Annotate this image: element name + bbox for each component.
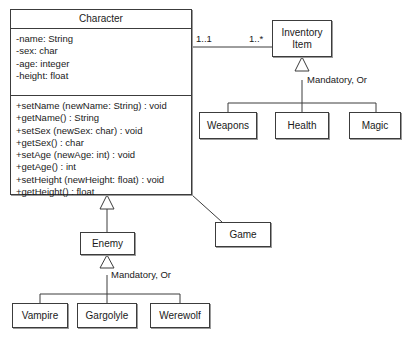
constraint-label-enemy: Mandatory, Or — [111, 269, 171, 280]
class-gargolyle[interactable]: Gargolyle — [77, 303, 137, 328]
method-row: +getAge() : int — [16, 161, 187, 173]
class-character-methods: +setName (newName: String) : void +getNa… — [11, 95, 191, 202]
method-row: +setHeight (newHeight: float) : void — [16, 174, 187, 186]
method-row: +setSex (newSex: char) : void — [16, 125, 187, 137]
method-row: +getHeight() : float — [16, 186, 187, 198]
method-row: +setName (newName: String) : void — [16, 100, 187, 112]
multiplicity-character-end: 1..1 — [196, 33, 212, 44]
method-row: +getName() : String — [16, 112, 187, 124]
class-inventory-item-name: Inventory Item — [273, 27, 331, 51]
class-character-attributes: -name: String -sex: char -age: integer -… — [11, 28, 191, 95]
constraint-label-inventory: Mandatory, Or — [307, 74, 367, 85]
class-weapons[interactable]: Weapons — [199, 112, 257, 139]
class-game-name: Game — [229, 229, 256, 241]
class-gargolyle-name: Gargolyle — [86, 310, 129, 322]
attribute-row: -sex: char — [16, 45, 187, 57]
class-enemy-name: Enemy — [92, 238, 123, 250]
attribute-row: -name: String — [16, 33, 187, 45]
class-werewolf[interactable]: Werewolf — [150, 303, 210, 328]
class-magic-name: Magic — [362, 120, 389, 132]
generalization-arrow-enemy — [100, 255, 114, 268]
class-vampire-name: Vampire — [22, 310, 59, 322]
method-row: +getSex() : char — [16, 137, 187, 149]
method-row: +setAge (newAge: int) : void — [16, 149, 187, 161]
class-werewolf-name: Werewolf — [159, 310, 201, 322]
class-inventory-item[interactable]: Inventory Item — [272, 20, 332, 57]
attribute-row: -height: float — [16, 70, 187, 82]
class-character[interactable]: Character -name: String -sex: char -age:… — [10, 9, 192, 195]
uml-class-diagram: Character -name: String -sex: char -age:… — [0, 0, 410, 341]
class-game[interactable]: Game — [215, 222, 271, 247]
class-vampire[interactable]: Vampire — [12, 303, 68, 328]
generalization-arrow-inventory — [295, 57, 309, 71]
class-character-name: Character — [11, 10, 191, 28]
class-health-name: Health — [288, 120, 317, 132]
class-weapons-name: Weapons — [207, 120, 249, 132]
class-enemy[interactable]: Enemy — [80, 232, 135, 255]
attribute-row: -age: integer — [16, 58, 187, 70]
association-character-game — [192, 195, 222, 222]
multiplicity-inventory-end: 1..* — [249, 33, 263, 44]
class-health[interactable]: Health — [275, 112, 329, 139]
class-magic[interactable]: Magic — [349, 112, 401, 139]
